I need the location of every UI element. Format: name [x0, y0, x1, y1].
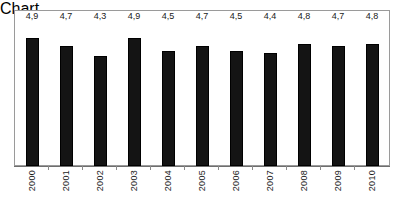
x-axis-labels: 2000 2001 2002 2003 2004 2005 2006 2007 … — [15, 170, 389, 208]
year-slot: 2009 — [321, 170, 355, 208]
bar-slot: 4,4 — [253, 11, 287, 166]
bar-value-label: 4,5 — [162, 11, 175, 21]
x-tick-label: 2000 — [27, 170, 37, 191]
bar-rect — [60, 46, 73, 166]
bar-value-label: 4,8 — [298, 11, 311, 21]
x-tick-label: 2001 — [61, 170, 71, 191]
year-slot: 2005 — [185, 170, 219, 208]
bar-slot: 4,3 — [83, 11, 117, 166]
bar-rect — [26, 38, 39, 166]
bar-rect — [332, 46, 345, 166]
bar-value-label: 4,8 — [366, 11, 379, 21]
bar-slot: 4,9 — [117, 11, 151, 166]
bar-slot: 4,7 — [185, 11, 219, 166]
x-tick-label: 2010 — [367, 170, 377, 191]
bar-value-label: 4,7 — [60, 11, 73, 21]
x-tick-label: 2002 — [95, 170, 105, 191]
year-slot: 2004 — [151, 170, 185, 208]
year-slot: 2001 — [49, 170, 83, 208]
bar-rect — [230, 51, 243, 166]
bar-value-label: 4,9 — [26, 11, 39, 21]
bar-value-label: 4,7 — [332, 11, 345, 21]
year-slot: 2010 — [355, 170, 389, 208]
bar-value-label: 4,4 — [264, 11, 277, 21]
year-slot: 2000 — [15, 170, 49, 208]
x-tick-label: 2008 — [299, 170, 309, 191]
bar-rect — [162, 51, 175, 166]
bar-value-label: 4,7 — [196, 11, 209, 21]
bar-slot: 4,7 — [49, 11, 83, 166]
bar-rect — [366, 44, 379, 166]
x-tick-label: 2004 — [163, 170, 173, 191]
bar-value-label: 4,9 — [128, 11, 141, 21]
bar-rect — [94, 56, 107, 166]
bar-rect — [128, 38, 141, 166]
x-tick-label: 2006 — [231, 170, 241, 191]
bar-slot: 4,5 — [151, 11, 185, 166]
x-tick-label: 2003 — [129, 170, 139, 191]
bar-value-label: 4,5 — [230, 11, 243, 21]
bar-value-label: 4,3 — [94, 11, 107, 21]
bar-rect — [298, 44, 311, 166]
year-slot: 2003 — [117, 170, 151, 208]
bar-rect — [264, 53, 277, 166]
year-slot: 2007 — [253, 170, 287, 208]
x-tick-label: 2009 — [333, 170, 343, 191]
x-tick-label: 2007 — [265, 170, 275, 191]
bar-rect — [196, 46, 209, 166]
bar-slot: 4,7 — [321, 11, 355, 166]
bar-slot: 4,9 — [15, 11, 49, 166]
year-slot: 2006 — [219, 170, 253, 208]
bar-slot: 4,8 — [287, 11, 321, 166]
bar-chart: 4,9 4,7 4,3 4,9 4,5 4,7 4,5 4,4 — [0, 0, 404, 210]
bar-slot: 4,8 — [355, 11, 389, 166]
bars-area: 4,9 4,7 4,3 4,9 4,5 4,7 4,5 4,4 — [15, 11, 389, 166]
year-slot: 2008 — [287, 170, 321, 208]
year-slot: 2002 — [83, 170, 117, 208]
bar-slot: 4,5 — [219, 11, 253, 166]
x-tick-label: 2005 — [197, 170, 207, 191]
